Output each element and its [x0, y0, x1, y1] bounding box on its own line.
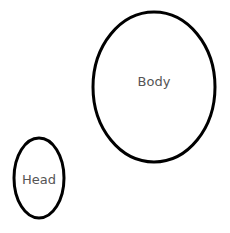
node-body[interactable]: Body [93, 12, 215, 162]
body-label: Body [138, 74, 171, 89]
node-head[interactable]: Head [14, 138, 64, 218]
head-label: Head [22, 172, 56, 187]
diagram-canvas: Body Head [0, 0, 230, 233]
